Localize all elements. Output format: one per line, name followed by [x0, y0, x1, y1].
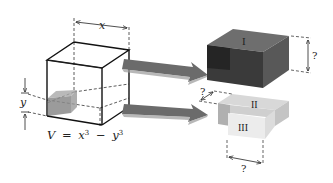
arrow-to-pieces-II-III: [122, 104, 208, 125]
piece-I: I ?: [207, 29, 317, 88]
y-label: y: [19, 96, 27, 109]
volume-formula: V = x3 − y3: [47, 124, 123, 142]
piece-II-dimension-label: ?: [200, 86, 205, 97]
arrow-to-piece-I: [122, 59, 208, 85]
piece-I-dimension-label: ?: [312, 50, 317, 61]
x-label: x: [99, 19, 106, 32]
piece-I-label: I: [242, 35, 246, 47]
piece-III-label: III: [238, 122, 248, 133]
pieces-II-III: II III ? ?: [199, 86, 289, 174]
hidden-edges: [28, 18, 129, 126]
piece-III-dimension-label: ?: [241, 163, 246, 174]
main-cube: x y V = x3 − y3: [19, 18, 129, 142]
inner-cube-y: [48, 90, 77, 116]
piece-II-label: II: [251, 99, 258, 110]
difference-of-cubes-diagram: x y V = x3 − y3 I: [0, 0, 333, 183]
